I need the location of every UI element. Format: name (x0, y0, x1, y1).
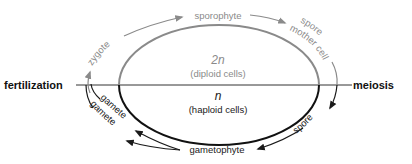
fertilization-label: fertilization (4, 79, 63, 91)
sporophyte-to-spore-mother-cell-arrow (250, 15, 285, 23)
spore-mother-cell-to-meiosis-line (332, 62, 337, 85)
meiosis-label: meiosis (353, 79, 394, 91)
zygote-label: zygote (85, 38, 112, 67)
life-cycle-diagram: 2n (diploid cells) n (haploid cells) fer… (0, 0, 412, 164)
fertilization-to-zygote-arrow (88, 72, 90, 93)
diploid-label: (diploid cells) (190, 68, 245, 79)
diploid-symbol: 2n (210, 53, 225, 67)
haploid-label: (haploid cells) (189, 104, 248, 115)
sporophyte-label: sporophyte (194, 10, 241, 21)
meiosis-to-spore-arrow (330, 85, 337, 108)
gametophyte-to-gamete2-arrow (127, 141, 180, 150)
haploid-symbol: n (215, 89, 222, 103)
gamete1-to-fertilization-line (91, 84, 100, 99)
zygote-to-sporophyte-arrow (124, 17, 182, 36)
gametophyte-label: gametophyte (190, 144, 245, 155)
